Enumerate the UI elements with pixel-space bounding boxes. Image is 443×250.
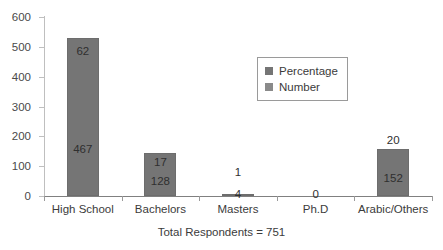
plot-area: 600 500 400 300 200 100 0 62 467 [44,17,432,196]
y-tick-label-600: 600 [12,11,31,23]
bar-group-arabic-others[interactable]: 152 20 [354,17,432,196]
legend-swatch-percentage-icon [265,67,273,75]
bar-label-number-phd: 0 [312,188,318,200]
x-tick-2 [199,196,200,201]
x-axis-label-phd: Ph.D [277,203,355,215]
x-axis-label-arabic-others: Arabic/Others [354,203,432,215]
legend-swatch-number-icon [265,83,273,91]
bar-high-school[interactable]: 62 467 [67,38,99,196]
y-tick-label-300: 300 [12,101,31,113]
legend-label-number: Number [279,81,320,93]
bar-label-number-arabic-others: 152 [378,172,408,184]
x-tick-0 [44,196,45,201]
x-tick-5 [432,196,433,201]
x-axis-label-bachelors: Bachelors [122,203,200,215]
bar-label-percentage-high-school: 62 [68,45,98,57]
y-tick-label-0: 0 [25,190,31,202]
bar-label-percentage-masters: 1 [235,166,241,178]
bar-label-number-high-school: 467 [68,143,98,155]
legend-item-percentage[interactable]: Percentage [265,63,338,79]
bar-label-number-masters: 4 [235,188,241,200]
bar-group-high-school[interactable]: 62 467 [44,17,122,196]
bar-group-bachelors[interactable]: 17 128 [122,17,200,196]
y-tick-label-400: 400 [12,71,31,83]
chart-legend[interactable]: Percentage Number [257,57,348,101]
bar-group-masters[interactable]: 1 4 [199,17,277,196]
x-tick-3 [277,196,278,201]
x-tick-4 [354,196,355,201]
y-tick-label-500: 500 [12,41,31,53]
legend-item-number[interactable]: Number [265,79,338,95]
bar-bachelors[interactable]: 17 128 [144,153,176,196]
x-tick-1 [122,196,123,201]
legend-label-percentage: Percentage [279,65,338,77]
bar-chart: 600 500 400 300 200 100 0 62 467 [0,0,443,250]
bar-label-number-bachelors: 128 [145,175,175,187]
bar-arabic-others[interactable]: 152 [377,149,409,196]
x-axis-label-high-school: High School [44,203,122,215]
bar-group-phd[interactable]: 0 [277,17,355,196]
y-tick-label-200: 200 [12,130,31,142]
x-axis-label-masters: Masters [199,203,277,215]
chart-footer-total-respondents: Total Respondents = 751 [0,226,443,238]
bar-label-percentage-arabic-others: 20 [387,134,400,146]
y-tick-label-100: 100 [12,160,31,172]
bar-label-percentage-bachelors: 17 [145,156,175,168]
